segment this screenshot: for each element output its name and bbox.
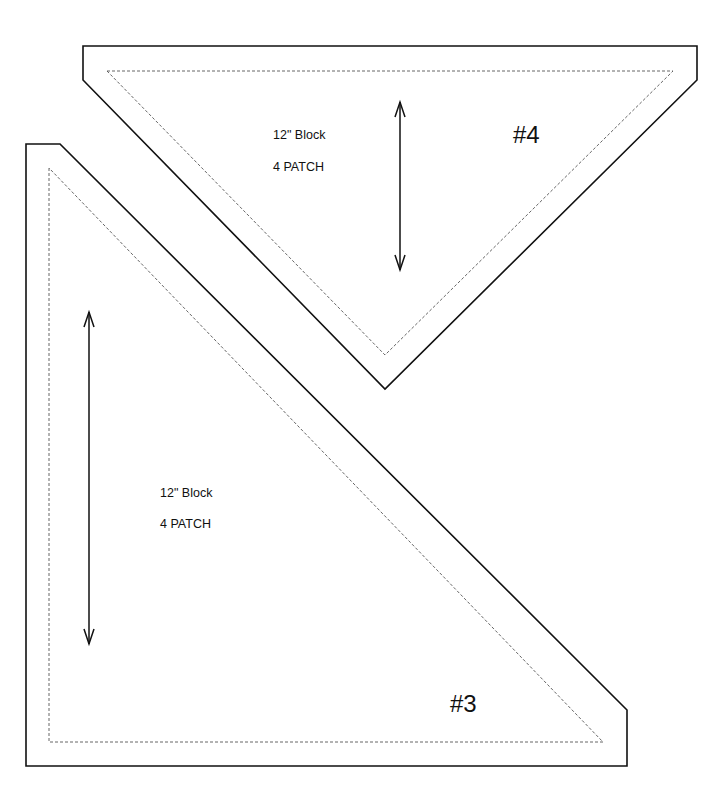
piece-3-type-label: 4 PATCH (160, 517, 211, 531)
piece-4-cut-line (83, 46, 697, 389)
piece-4-grain-arrow-icon (395, 102, 405, 270)
piece-4-size-label: 12" Block (273, 128, 325, 142)
piece-3-number: #3 (450, 690, 477, 718)
quilt-template-canvas (0, 0, 720, 808)
piece-3-seam-line (49, 168, 603, 742)
piece-4-seam-line (107, 71, 673, 355)
piece-4 (83, 46, 697, 389)
piece-4-type-label: 4 PATCH (273, 160, 324, 174)
piece-3 (26, 144, 627, 766)
piece-3-grain-arrow-icon (84, 312, 94, 644)
piece-3-size-label: 12" Block (160, 486, 212, 500)
piece-4-number: #4 (513, 121, 540, 149)
